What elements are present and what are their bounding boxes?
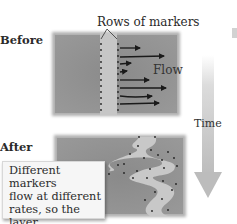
- marker-layer-band: [100, 33, 117, 115]
- callout-line-2: flow at different: [9, 190, 101, 203]
- callout-line-1: Different markers: [9, 164, 101, 190]
- time-label: Time: [194, 117, 222, 130]
- after-label: After: [0, 140, 32, 154]
- edge-fragment: [232, 28, 237, 38]
- before-label: Before: [0, 33, 43, 47]
- rows-of-markers-label: Rows of markers: [97, 15, 200, 29]
- callout-line-3: rates, so the layer: [9, 203, 101, 224]
- flow-label: Flow: [153, 63, 183, 77]
- explanation-callout: Different markers flow at different rate…: [2, 161, 105, 219]
